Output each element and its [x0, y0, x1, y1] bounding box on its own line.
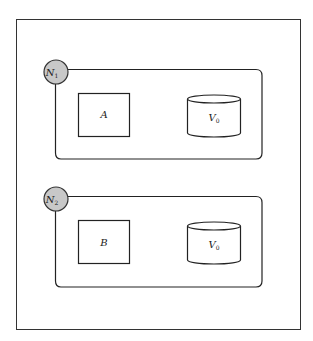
- node-2-group: N2 B V0: [44, 187, 262, 287]
- node-1-group: N1 A V0: [44, 60, 262, 159]
- diagram-canvas: N1 A V0 N2 B V0: [0, 0, 313, 341]
- component-a-label: A: [99, 109, 107, 120]
- component-b-label: B: [99, 237, 107, 248]
